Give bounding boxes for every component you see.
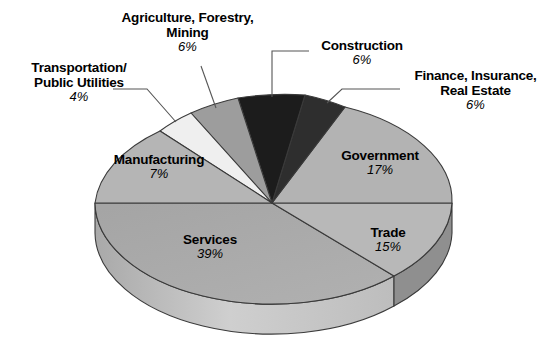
slice-value-manufacturing: 7%	[96, 167, 222, 182]
leader-line-finance	[327, 89, 400, 103]
slice-label-finance-line2: Real Estate	[398, 83, 553, 98]
slice-value-transportation: 4%	[0, 90, 158, 105]
slice-label-trade: Trade 15%	[340, 225, 436, 255]
slice-label-agriculture-line2: Mining	[100, 25, 275, 40]
slice-label-services-line1: Services	[150, 232, 270, 247]
slice-label-government-line1: Government	[318, 148, 442, 163]
slice-label-finance: Finance, Insurance, Real Estate 6%	[398, 68, 553, 113]
leader-line-agriculture	[201, 66, 216, 108]
slice-value-trade: 15%	[340, 240, 436, 255]
slice-label-manufacturing-line1: Manufacturing	[96, 152, 222, 167]
slice-label-agriculture: Agriculture, Forestry, Mining 6%	[100, 10, 275, 55]
pie-chart-figure: Transportation/ Public Utilities 4% Agri…	[0, 0, 553, 358]
pie-chart-graphic	[0, 0, 553, 358]
slice-value-agriculture: 6%	[100, 40, 275, 55]
pie-slices	[95, 94, 452, 304]
slice-value-government: 17%	[318, 163, 442, 178]
slice-label-trade-line1: Trade	[340, 225, 436, 240]
slice-label-transportation-line2: Public Utilities	[0, 75, 158, 90]
slice-label-construction-line1: Construction	[292, 38, 432, 53]
slice-label-manufacturing: Manufacturing 7%	[96, 152, 222, 182]
slice-label-services: Services 39%	[150, 232, 270, 262]
slice-value-services: 39%	[150, 247, 270, 262]
slice-label-finance-line1: Finance, Insurance,	[398, 68, 553, 83]
slice-label-government: Government 17%	[318, 148, 442, 178]
slice-label-transportation-line1: Transportation/	[0, 60, 158, 75]
slice-label-construction: Construction 6%	[292, 38, 432, 68]
slice-value-finance: 6%	[398, 98, 553, 113]
slice-value-construction: 6%	[292, 53, 432, 68]
slice-label-transportation: Transportation/ Public Utilities 4%	[0, 60, 158, 105]
slice-label-agriculture-line1: Agriculture, Forestry,	[100, 10, 275, 25]
